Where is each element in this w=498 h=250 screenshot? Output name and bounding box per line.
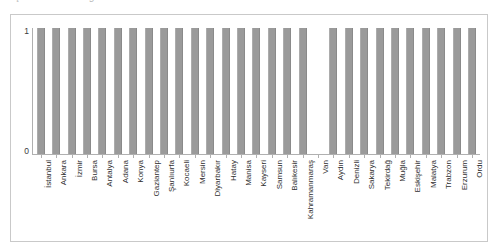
bar-slot [249, 28, 264, 154]
bar-slot [95, 28, 110, 154]
bar[interactable] [129, 28, 137, 154]
x-axis-tick-group: Bursa [79, 155, 94, 241]
x-axis-tick-group: Trabzon [434, 155, 449, 241]
bar[interactable] [283, 28, 291, 154]
bar[interactable] [329, 28, 337, 154]
bar[interactable] [206, 28, 214, 154]
bar-slot [202, 28, 217, 154]
bar-slot [464, 28, 479, 154]
x-axis-tick-group: Ankara [48, 155, 63, 241]
bar[interactable] [468, 28, 476, 154]
x-tick-mark [241, 155, 242, 158]
bar[interactable] [252, 28, 260, 154]
bar-slot [218, 28, 233, 154]
x-axis-tick-group: Şanlıurfa [156, 155, 171, 241]
bar[interactable] [237, 28, 245, 154]
x-tick-mark [395, 155, 396, 158]
bar[interactable] [98, 28, 106, 154]
x-tick-mark [426, 155, 427, 158]
x-tick-mark [179, 155, 180, 158]
x-tick-mark [333, 155, 334, 158]
x-axis-tick-group: Mersin [187, 155, 202, 241]
bar[interactable] [345, 28, 353, 154]
x-tick-mark [457, 155, 458, 158]
x-tick-mark [118, 155, 119, 158]
x-tick-mark [56, 155, 57, 158]
x-axis-tick-group: Van [310, 155, 325, 241]
x-axis-tick-group: Tekirdağ [372, 155, 387, 241]
bar-slot [326, 28, 341, 154]
bar-chart: 1 0 İstanbulAnkaraİzmirBursaAntalyaAdana… [11, 15, 487, 241]
x-axis-tick-group: Aydın [326, 155, 341, 241]
bar[interactable] [437, 28, 445, 154]
x-axis-tick-group: Gaziantep [141, 155, 156, 241]
bar[interactable] [175, 28, 183, 154]
bar[interactable] [406, 28, 414, 154]
bar[interactable] [52, 28, 60, 154]
x-axis-tick-group: İstanbul [33, 155, 48, 241]
x-axis-tick-group: Diyarbakır [202, 155, 217, 241]
bar[interactable] [453, 28, 461, 154]
bar[interactable] [83, 28, 91, 154]
bar-slot [264, 28, 279, 154]
x-axis-tick-group: Balıkesir [280, 155, 295, 241]
x-axis-tick-group: Kocaeli [172, 155, 187, 241]
x-axis-tick-group: Antalya [95, 155, 110, 241]
bar-slot [357, 28, 372, 154]
x-axis-tick-group: Denizli [341, 155, 356, 241]
bar-slot [110, 28, 125, 154]
bar-slot [295, 28, 310, 154]
x-axis-tick-group: Hatay [218, 155, 233, 241]
bar-slot [341, 28, 356, 154]
x-axis-tick-group: Kahramanmaraş [295, 155, 310, 241]
x-tick-mark [41, 155, 42, 158]
bar[interactable] [268, 28, 276, 154]
x-tick-mark [287, 155, 288, 158]
bar[interactable] [222, 28, 230, 154]
bar-slot [449, 28, 464, 154]
x-tick-mark [195, 155, 196, 158]
x-tick-mark [210, 155, 211, 158]
bar-slot [418, 28, 433, 154]
bar-slot [233, 28, 248, 154]
x-tick-mark [102, 155, 103, 158]
x-axis-tick-group: Manisa [233, 155, 248, 241]
x-tick-mark [472, 155, 473, 158]
y-tick-label-max: 1 [24, 27, 29, 36]
bar-slot [434, 28, 449, 154]
bar-slot [372, 28, 387, 154]
bar[interactable] [376, 28, 384, 154]
bar-slot [33, 28, 48, 154]
x-axis-tick-group: Adana [110, 155, 125, 241]
bar[interactable] [191, 28, 199, 154]
x-tick-mark [133, 155, 134, 158]
bar[interactable] [145, 28, 153, 154]
x-tick-mark [318, 155, 319, 158]
x-axis-tick-group: Ordu [464, 155, 479, 241]
bar-slot [310, 28, 325, 154]
chart-frame: 1 0 İstanbulAnkaraİzmirBursaAntalyaAdana… [10, 14, 488, 242]
bar[interactable] [68, 28, 76, 154]
x-tick-mark [303, 155, 304, 158]
x-tick-mark [164, 155, 165, 158]
x-axis-tick-group: Samsun [264, 155, 279, 241]
x-tick-mark [441, 155, 442, 158]
x-tick-mark [410, 155, 411, 158]
bar[interactable] [37, 28, 45, 154]
bar[interactable] [391, 28, 399, 154]
bar[interactable] [160, 28, 168, 154]
x-tick-mark [149, 155, 150, 158]
bar[interactable] [299, 28, 307, 154]
bar[interactable] [422, 28, 430, 154]
x-tick-mark [364, 155, 365, 158]
bar-slot [79, 28, 94, 154]
x-tick-mark [272, 155, 273, 158]
clipped-caption-text: Şekil 4. Nüfusa göre iller [0, 0, 498, 5]
bar[interactable] [360, 28, 368, 154]
x-tick-mark [349, 155, 350, 158]
bar[interactable] [114, 28, 122, 154]
x-axis-tick-group: Sakarya [357, 155, 372, 241]
x-axis-tick-group: Eskişehir [403, 155, 418, 241]
bar-slot [141, 28, 156, 154]
x-tick-label: Ordu [475, 160, 484, 178]
